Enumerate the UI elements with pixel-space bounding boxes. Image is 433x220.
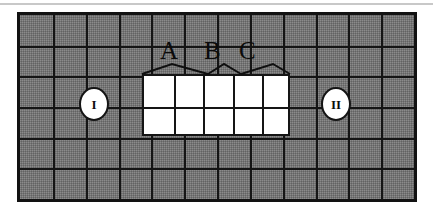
cleared-region	[142, 74, 290, 136]
marker-two-label: II	[331, 98, 341, 111]
span-b-label: B	[204, 38, 221, 63]
span-a-label: A	[160, 38, 178, 63]
top-rule-divider	[0, 3, 433, 5]
cleared-cell-divider-v	[262, 76, 264, 134]
marker-two: II	[321, 87, 351, 121]
bracket-b	[208, 64, 241, 74]
marker-one: I	[79, 87, 109, 121]
marker-one-label: I	[91, 98, 96, 111]
figure-canvas: I II A B C	[0, 0, 433, 220]
cleared-cell-divider-v	[203, 76, 205, 134]
span-c-label: C	[239, 38, 256, 63]
grid-hline	[20, 168, 414, 170]
cleared-cell-divider-h	[144, 107, 288, 109]
grid-field: I II A B C	[17, 12, 417, 202]
cleared-cell-divider-v	[233, 76, 235, 134]
grid-hline	[20, 138, 414, 140]
cleared-cell-divider-v	[174, 76, 176, 134]
